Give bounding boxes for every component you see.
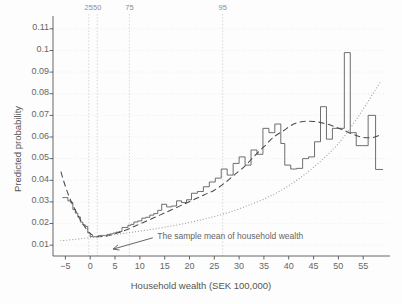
series-linear-fit <box>60 82 380 241</box>
chart-canvas <box>0 0 402 304</box>
percentile-label-50: 50 <box>86 3 108 12</box>
percentile-label-95: 95 <box>212 3 234 12</box>
x-tick-label: 45 <box>300 261 328 271</box>
y-tick-label: 0.09 <box>11 66 49 76</box>
x-tick-label: 5 <box>101 261 129 271</box>
x-tick-label: −5 <box>51 261 79 271</box>
y-tick-label: 0.03 <box>11 195 49 205</box>
x-tick-label: 50 <box>324 261 352 271</box>
x-tick-label: 55 <box>349 261 377 271</box>
x-tick-label: 25 <box>200 261 228 271</box>
y-tick-label: 0.11 <box>11 22 49 32</box>
annotation-arrow-line <box>113 238 153 249</box>
x-tick-label: 10 <box>126 261 154 271</box>
x-tick-label: 20 <box>175 261 203 271</box>
chart-figure: 0.010.020.030.040.050.060.070.080.090.10… <box>0 0 402 304</box>
y-tick-label: 0.02 <box>11 217 49 227</box>
x-tick-label: 30 <box>225 261 253 271</box>
x-axis-title: Household wealth (SEK 100,000) <box>0 280 402 291</box>
percentile-label-75: 75 <box>118 3 140 12</box>
annotation-text: The sample mean of household wealth <box>157 231 357 241</box>
x-tick-label: 0 <box>76 261 104 271</box>
y-tick-label: 0.01 <box>11 239 49 249</box>
x-tick-label: 40 <box>275 261 303 271</box>
y-tick-label: 0.08 <box>11 87 49 97</box>
x-tick-label: 35 <box>250 261 278 271</box>
y-tick-label: 0.1 <box>11 44 49 54</box>
x-tick-label: 15 <box>151 261 179 271</box>
